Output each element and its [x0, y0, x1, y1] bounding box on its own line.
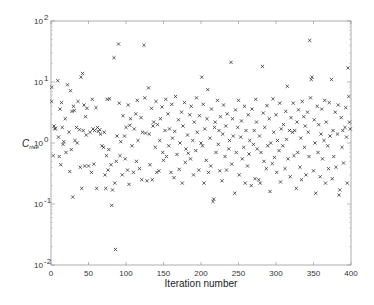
data-point-marker — [82, 129, 85, 132]
data-point-marker — [256, 147, 259, 150]
data-point-marker — [239, 135, 242, 138]
data-point-marker — [299, 137, 302, 140]
data-point-marker — [177, 118, 180, 121]
data-point-marker — [90, 171, 93, 174]
data-point-marker — [284, 110, 287, 113]
data-point-marker — [160, 105, 163, 108]
data-point-marker — [237, 99, 240, 102]
y-tick-exponent: 1 — [44, 74, 49, 83]
data-point-marker — [227, 147, 230, 150]
data-point-marker — [134, 112, 137, 115]
data-point-marker — [343, 126, 346, 129]
data-point-marker — [151, 124, 154, 127]
data-point-marker — [105, 154, 108, 157]
data-point-marker — [320, 107, 323, 110]
data-point-marker — [334, 166, 337, 169]
data-point-marker — [286, 85, 289, 88]
data-point-marker — [342, 161, 345, 164]
data-point-marker — [303, 146, 306, 149]
data-point-marker — [262, 111, 265, 114]
data-point-marker — [173, 130, 176, 133]
data-point-marker — [282, 123, 285, 126]
data-point-marker — [273, 156, 276, 159]
data-point-marker — [110, 204, 113, 207]
data-point-marker — [133, 127, 136, 130]
data-point-marker — [233, 192, 236, 195]
data-point-marker — [94, 106, 97, 109]
data-points — [50, 39, 352, 251]
data-point-marker — [337, 103, 340, 106]
data-point-marker — [259, 151, 262, 154]
data-point-marker — [331, 177, 334, 180]
data-point-marker — [225, 168, 228, 171]
data-point-marker — [295, 121, 298, 124]
data-point-marker — [261, 65, 264, 68]
data-point-marker — [123, 134, 126, 137]
data-point-marker — [238, 173, 241, 176]
data-point-marker — [253, 177, 256, 180]
data-point-marker — [200, 76, 203, 79]
data-point-marker — [132, 171, 135, 174]
data-point-marker — [57, 135, 60, 138]
data-point-marker — [171, 137, 174, 140]
data-point-marker — [248, 139, 251, 142]
data-point-marker — [254, 98, 257, 101]
data-point-marker — [217, 143, 220, 146]
data-point-marker — [202, 103, 205, 106]
data-point-marker — [231, 117, 234, 120]
y-tick-exponent: 2 — [44, 13, 49, 22]
data-point-marker — [255, 121, 258, 124]
data-point-marker — [295, 187, 298, 190]
x-tick-label: 0 — [49, 269, 54, 278]
data-point-marker — [142, 44, 145, 47]
data-point-marker — [220, 179, 223, 182]
data-point-marker — [304, 173, 307, 176]
data-point-marker — [144, 132, 147, 135]
data-point-marker — [298, 166, 301, 169]
data-point-marker — [266, 144, 269, 147]
data-point-marker — [242, 146, 245, 149]
data-point-marker — [184, 161, 187, 164]
data-point-marker — [288, 129, 291, 132]
data-point-marker — [135, 160, 138, 163]
data-point-marker — [79, 166, 82, 169]
data-point-marker — [222, 103, 225, 106]
data-point-marker — [154, 100, 157, 103]
data-point-marker — [136, 139, 139, 142]
data-point-marker — [268, 117, 271, 120]
data-point-marker — [243, 105, 246, 108]
data-point-marker — [263, 126, 266, 129]
data-point-marker — [250, 107, 253, 110]
data-point-marker — [268, 190, 271, 193]
data-point-marker — [235, 151, 238, 154]
y-axis-ticks: 10-210-1100101102 — [34, 13, 351, 270]
data-point-marker — [85, 133, 88, 136]
data-point-marker — [162, 159, 165, 162]
data-point-marker — [72, 105, 75, 108]
data-point-marker — [226, 112, 229, 115]
data-point-marker — [148, 163, 151, 166]
data-point-marker — [205, 159, 208, 162]
data-point-marker — [344, 106, 347, 109]
data-point-marker — [115, 134, 118, 137]
data-point-marker — [170, 103, 173, 106]
data-point-marker — [145, 179, 148, 182]
data-point-marker — [265, 167, 268, 170]
data-point-marker — [70, 148, 73, 151]
data-point-marker — [118, 102, 121, 105]
data-point-marker — [336, 132, 339, 135]
data-point-marker — [186, 133, 189, 136]
data-point-marker — [75, 126, 78, 129]
data-point-marker — [87, 164, 90, 167]
data-point-marker — [156, 123, 159, 126]
y-tick-label: 10 — [34, 261, 43, 270]
data-point-marker — [76, 141, 79, 144]
data-point-marker — [337, 193, 340, 196]
data-point-marker — [195, 96, 198, 99]
data-point-marker — [203, 127, 206, 130]
data-point-marker — [189, 157, 192, 160]
data-point-marker — [64, 151, 67, 154]
data-point-marker — [83, 164, 86, 167]
data-point-marker — [324, 182, 327, 185]
data-point-marker — [340, 116, 343, 119]
